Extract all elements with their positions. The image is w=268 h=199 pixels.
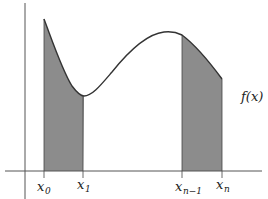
svg-text:x: x bbox=[77, 177, 85, 192]
svg-text:1: 1 bbox=[85, 184, 91, 194]
svg-text:n−1: n−1 bbox=[183, 186, 202, 196]
svg-text:0: 0 bbox=[45, 186, 51, 196]
tick-label-x0: x 0 bbox=[37, 179, 51, 196]
riemann-diagram: f(x) x 0 x 1 x n−1 x n bbox=[0, 0, 268, 199]
shaded-region-right bbox=[182, 35, 222, 171]
shaded-region-left bbox=[44, 19, 84, 171]
svg-text:n: n bbox=[224, 184, 230, 194]
curve-label: f(x) bbox=[240, 89, 263, 104]
tick-label-xn-1: x n−1 bbox=[175, 179, 202, 196]
tick-label-xn: x n bbox=[216, 177, 230, 194]
svg-text:x: x bbox=[37, 179, 45, 194]
svg-text:x: x bbox=[216, 177, 224, 192]
tick-label-x1: x 1 bbox=[77, 177, 91, 194]
svg-text:x: x bbox=[175, 179, 183, 194]
